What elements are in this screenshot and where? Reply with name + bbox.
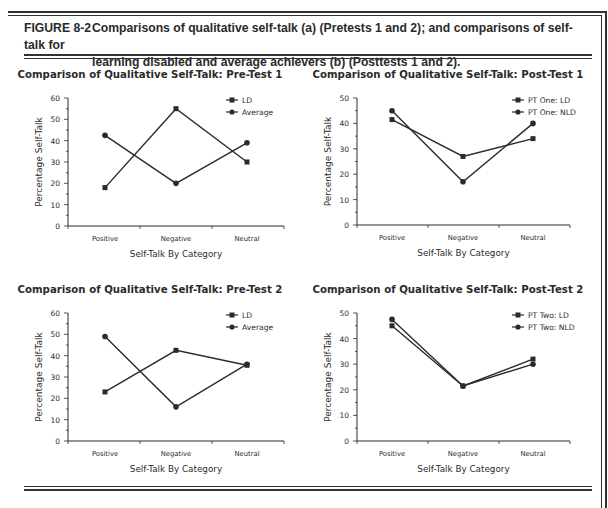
series-line [392, 326, 533, 386]
data-point-circle [530, 121, 536, 127]
chart-pre-test-1: Comparison of Qualitative Self-Talk: Pre… [0, 64, 300, 264]
chart-title: Comparison of Qualitative Self-Talk: Pos… [313, 69, 584, 80]
y-tick-label: 0 [344, 221, 349, 230]
data-point-square [390, 323, 395, 328]
series-line [105, 109, 247, 188]
y-tick-label: 20 [50, 394, 60, 403]
x-tick-label: Negative [161, 450, 192, 458]
legend-square-icon [516, 98, 521, 103]
legend-label: Average [242, 108, 274, 117]
data-point-square [174, 106, 179, 111]
x-tick-label: Neutral [234, 235, 259, 243]
y-tick-label: 20 [339, 170, 349, 179]
y-tick-label: 60 [50, 309, 60, 318]
series-line [392, 120, 533, 157]
x-tick-label: Neutral [520, 234, 545, 242]
legend-circle-icon [515, 324, 520, 329]
y-tick-label: 10 [50, 416, 60, 425]
x-tick-label: Negative [161, 235, 192, 243]
x-tick-label: Positive [379, 450, 405, 458]
data-point-square [103, 389, 108, 394]
data-point-square [174, 348, 179, 353]
x-tick-label: Negative [448, 234, 479, 242]
legend-label: PT One: NLD [528, 108, 576, 117]
y-tick-label: 30 [339, 360, 349, 369]
legend-square-icon [230, 98, 235, 103]
data-point-square [531, 357, 536, 362]
right-border-inner [601, 15, 602, 508]
chart-title: Comparison of Qualitative Self-Talk: Pre… [18, 284, 283, 295]
data-point-square [103, 185, 108, 190]
series-line [392, 319, 533, 386]
x-axis-label: Self-Talk By Category [130, 464, 222, 474]
y-tick-label: 10 [50, 201, 60, 210]
chart-title: Comparison of Qualitative Self-Talk: Pos… [313, 284, 584, 295]
bottom-rule-thick [24, 489, 592, 491]
legend-circle-icon [515, 109, 520, 114]
data-point-circle [389, 317, 395, 323]
y-tick-label: 20 [50, 179, 60, 188]
legend-label: PT One: LD [528, 96, 570, 105]
legend-circle-icon [229, 324, 234, 329]
y-tick-label: 50 [50, 115, 60, 124]
data-point-square [390, 117, 395, 122]
y-tick-label: 10 [339, 411, 349, 420]
data-point-circle [173, 181, 179, 187]
data-point-circle [102, 133, 108, 139]
y-axis-label: Percentage Self-Talk [323, 331, 333, 421]
series-line [105, 336, 247, 406]
y-axis-label: Percentage Self-Talk [34, 331, 44, 421]
top-rule-inner [8, 15, 602, 16]
data-point-circle [460, 179, 466, 185]
heading-rule-thick [24, 54, 592, 56]
chart-post-test-1: Comparison of Qualitative Self-Talk: Pos… [300, 64, 600, 264]
y-tick-label: 40 [50, 352, 60, 361]
legend-label: PT Two: NLD [528, 323, 575, 332]
y-tick-label: 0 [344, 437, 349, 446]
y-axis-label: Percentage Self-Talk [34, 116, 44, 206]
y-tick-label: 50 [50, 330, 60, 339]
figure-label: FIGURE 8-2 [24, 20, 92, 37]
y-tick-label: 50 [339, 309, 349, 318]
series-line [105, 350, 247, 392]
series-line [105, 135, 247, 183]
data-point-circle [530, 361, 536, 367]
data-point-square [461, 154, 466, 159]
series-line [392, 111, 533, 182]
y-tick-label: 30 [50, 158, 60, 167]
y-tick-label: 30 [339, 145, 349, 154]
x-tick-label: Negative [448, 450, 479, 458]
x-tick-label: Positive [379, 234, 405, 242]
x-tick-label: Neutral [520, 450, 545, 458]
data-point-circle [244, 140, 250, 146]
y-tick-label: 40 [50, 137, 60, 146]
bottom-rule-thin [24, 486, 592, 487]
legend-label: LD [242, 96, 252, 105]
legend-label: PT Two: LD [528, 311, 569, 320]
y-axis-label: Percentage Self-Talk [323, 116, 333, 206]
data-point-square [531, 136, 536, 141]
y-tick-label: 10 [339, 196, 349, 205]
legend-label: LD [242, 311, 252, 320]
top-rule-outer [8, 11, 606, 13]
y-tick-label: 40 [339, 335, 349, 344]
right-border-outer [605, 11, 607, 508]
heading-rule-thin [24, 58, 592, 59]
figure-caption-line1: Comparisons of qualitative self-talk (a)… [24, 21, 573, 52]
x-axis-label: Self-Talk By Category [130, 249, 222, 259]
y-tick-label: 30 [50, 373, 60, 382]
x-axis-label: Self-Talk By Category [417, 248, 509, 258]
y-tick-label: 50 [339, 94, 349, 103]
y-tick-label: 20 [339, 386, 349, 395]
data-point-circle [389, 108, 395, 114]
chart-pre-test-2: Comparison of Qualitative Self-Talk: Pre… [0, 279, 300, 479]
data-point-circle [173, 404, 179, 410]
chart-post-test-2: Comparison of Qualitative Self-Talk: Pos… [300, 279, 600, 479]
x-tick-label: Neutral [234, 450, 259, 458]
y-tick-label: 0 [55, 437, 60, 446]
data-point-circle [102, 334, 108, 340]
data-point-circle [460, 383, 466, 389]
legend-square-icon [516, 313, 521, 318]
x-tick-label: Positive [92, 235, 118, 243]
x-axis-label: Self-Talk By Category [417, 464, 509, 474]
